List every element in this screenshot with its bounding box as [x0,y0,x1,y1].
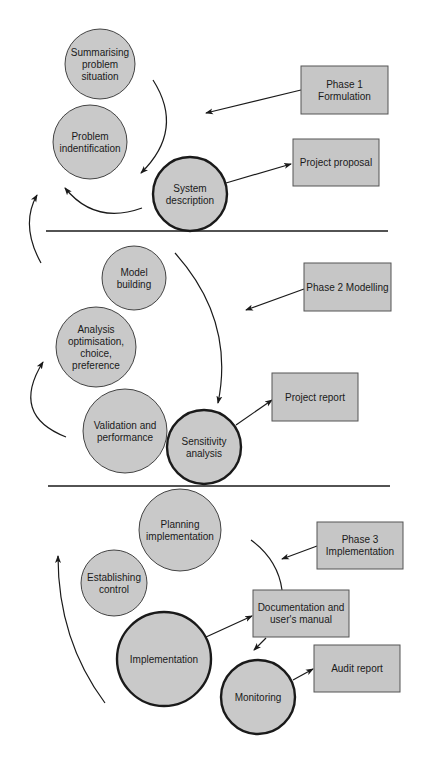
phase-boxes: Phase 1FormulationProject proposalPhase … [253,66,403,692]
stage-label: preference [72,360,120,371]
stage-problem-identification: Problemindentification [53,105,127,179]
stage-system-description: Systemdescription [153,157,227,231]
stage-summarising: Summarisingproblemsituation [65,29,135,99]
arrow-icon [226,164,291,183]
phase1-output-box: Project proposal [293,139,379,186]
stage-label: Analysis [77,324,114,335]
curved-arrow-icon [141,80,166,173]
arrow-icon [246,289,304,310]
stage-label: System [173,183,206,194]
stage-analysis: Analysisoptimisation,choice,preference [56,307,136,387]
arrow-icon [206,616,252,637]
stage-monitoring: Monitoring [221,660,295,734]
stage-label: control [99,584,129,595]
stage-label: choice, [80,348,112,359]
audit-report-box-label: Audit report [331,663,383,674]
documentation-box: Documentation anduser's manual [253,590,349,637]
stage-label: Problem [71,131,108,142]
stage-label: implementation [146,531,214,542]
stage-implementation: Implementation [117,612,211,706]
phase2-output-box-label: Project report [285,392,345,403]
audit-report-box: Audit report [314,645,400,692]
curved-arrow-icon [175,253,222,403]
stage-label: description [166,195,214,206]
stage-label: Validation and [94,420,157,431]
documentation-box-label: Documentation and [258,602,345,613]
arrow-icon [282,546,317,559]
arrow-icon [236,400,272,425]
phase1-label-box-label: Phase 1 [326,79,363,90]
phase2-output-box: Project report [272,373,358,421]
stage-planning: Planningimplementation [139,489,221,571]
stage-sensitivity: Sensitivityanalysis [167,410,241,484]
curved-arrow-icon [65,188,142,213]
stage-label: Planning [161,519,200,530]
stage-label: indentification [59,143,120,154]
phase3-label-box-label: Implementation [326,546,394,557]
documentation-box-label: user's manual [270,614,332,625]
arrow-icon [206,90,301,113]
phase2-label-box: Phase 2 Modelling [304,263,391,311]
stage-label: Summarising [71,47,129,58]
phase3-label-box-label: Phase 3 [342,534,379,545]
phase3-label-box: Phase 3Implementation [317,522,403,569]
phase-diagram: Phase 1FormulationProject proposalPhase … [0,0,421,760]
stage-label: Implementation [130,654,198,665]
stage-establishing-control: Establishingcontrol [81,550,147,616]
curved-arrow-icon [29,195,41,263]
stage-label: situation [81,71,118,82]
stage-label: building [117,279,151,290]
stage-model-building: Modelbuilding [102,246,166,310]
arrow-icon [293,669,313,680]
arrow-icon [254,638,266,650]
curved-connector [251,540,282,590]
stage-label: problem [82,59,118,70]
stage-label: analysis [186,448,222,459]
stage-label: optimisation, [68,336,124,347]
stage-validation: Validation andperformance [83,389,167,473]
phase1-label-box-label: Formulation [318,91,371,102]
stage-label: Monitoring [235,692,282,703]
phase1-output-box-label: Project proposal [300,157,372,168]
phase2-label-box-label: Phase 2 Modelling [306,282,388,293]
curved-arrow-icon [31,362,66,437]
stage-label: Sensitivity [181,436,226,447]
stage-label: Establishing [87,572,141,583]
stage-label: Model [120,267,147,278]
phase1-label-box: Phase 1Formulation [301,66,388,114]
stage-label: performance [97,432,154,443]
